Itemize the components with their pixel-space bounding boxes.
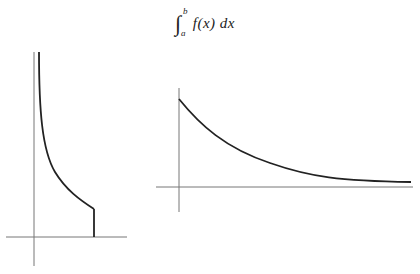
left-curve bbox=[39, 52, 94, 209]
left-graph bbox=[6, 52, 127, 266]
right-graph bbox=[156, 88, 413, 212]
graphs-canvas bbox=[0, 0, 420, 274]
right-curve bbox=[179, 99, 411, 182]
